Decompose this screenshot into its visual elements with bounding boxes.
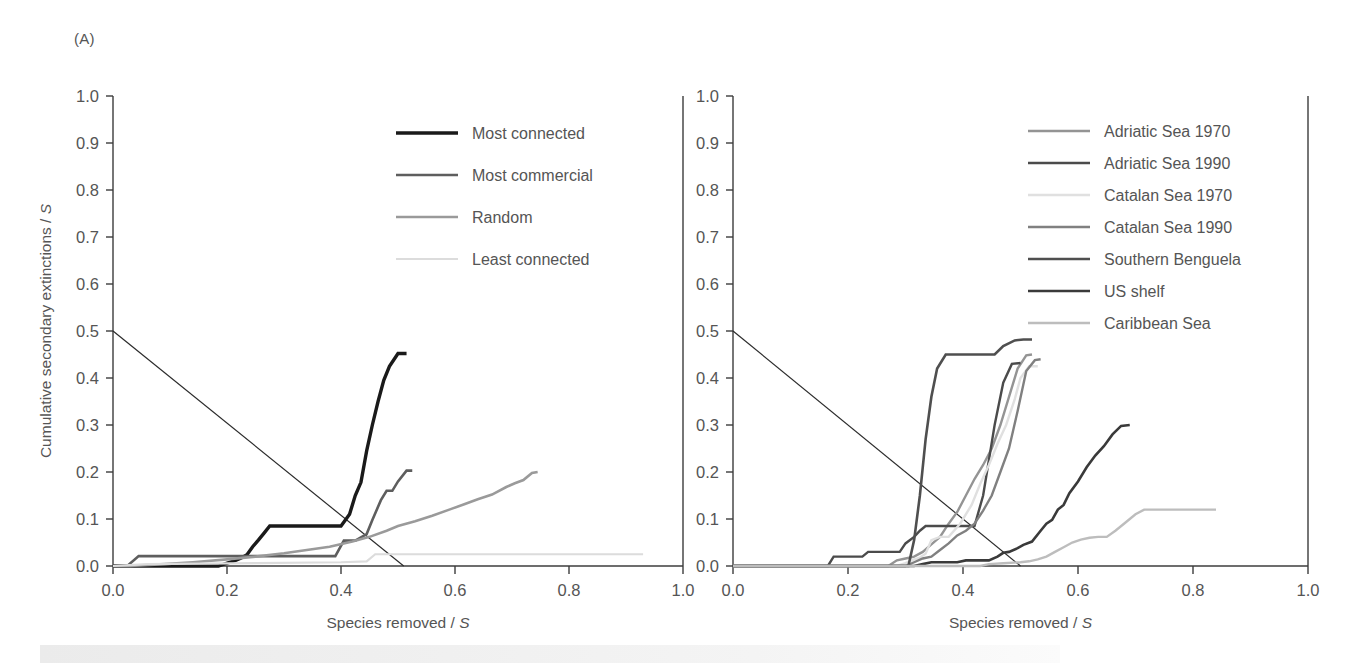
x-tick-label: 0.0 xyxy=(722,581,745,599)
y-tick-label: 0.6 xyxy=(76,275,99,293)
x-tick-label: 0.2 xyxy=(837,581,860,599)
x-axis-title: Species removed / S xyxy=(949,614,1093,631)
chart-a: 0.00.10.20.30.40.50.60.70.80.91.00.00.20… xyxy=(0,0,700,640)
y-tick-label: 0.8 xyxy=(76,181,99,199)
legend-label-adriatic-sea-1990: Adriatic Sea 1990 xyxy=(1104,155,1230,172)
x-axis-title: Species removed / S xyxy=(326,614,470,631)
series-line-adriatic-sea-1970 xyxy=(733,355,1032,567)
y-tick-label: 0.4 xyxy=(76,369,99,387)
y-ticks: 0.00.10.20.30.40.50.60.70.80.91.0 xyxy=(696,87,733,575)
series-line-catalan-sea-1970 xyxy=(733,366,1038,566)
series-line-catalan-sea-1990 xyxy=(733,359,1041,566)
x-tick-label: 0.2 xyxy=(216,581,239,599)
y-tick-label: 0.2 xyxy=(76,463,99,481)
legend: Most connectedMost commercialRandomLeast… xyxy=(396,125,593,268)
panel-b: (B) 0.00.10.20.30.40.50.60.70.80.91.00.0… xyxy=(660,0,1360,640)
series-group xyxy=(113,354,643,566)
legend-label-random: Random xyxy=(472,209,532,226)
x-tick-label: 0.4 xyxy=(952,581,975,599)
chart-b: 0.00.10.20.30.40.50.60.70.80.91.00.00.20… xyxy=(660,0,1360,640)
y-tick-label: 0.5 xyxy=(696,322,719,340)
legend-label-catalan-sea-1970: Catalan Sea 1970 xyxy=(1104,187,1232,204)
series-line-adriatic-sea-1990 xyxy=(733,363,1021,566)
legend-label-adriatic-sea-1970: Adriatic Sea 1970 xyxy=(1104,123,1230,140)
x-tick-label: 0.4 xyxy=(330,581,353,599)
y-tick-label: 0.8 xyxy=(696,181,719,199)
series-line-most-commercial xyxy=(113,471,412,566)
series-line-caribbean-sea xyxy=(733,510,1216,566)
axes xyxy=(113,96,683,566)
y-tick-label: 1.0 xyxy=(76,87,99,105)
legend-label-least-connected: Least connected xyxy=(472,251,589,268)
y-tick-label: 0.9 xyxy=(76,134,99,152)
y-axis-title: Cumulative secondary extinctions / S xyxy=(37,203,54,458)
series-group xyxy=(733,339,1216,566)
y-tick-label: 0.1 xyxy=(76,510,99,528)
y-tick-label: 1.0 xyxy=(696,87,719,105)
legend-label-most-commercial: Most commercial xyxy=(472,167,593,184)
legend-label-southern-benguela: Southern Benguela xyxy=(1104,251,1241,268)
reference-diagonal-line xyxy=(113,331,404,566)
x-tick-label: 0.8 xyxy=(1182,581,1205,599)
y-tick-label: 0.0 xyxy=(76,557,99,575)
x-tick-label: 0.6 xyxy=(1067,581,1090,599)
y-tick-label: 0.6 xyxy=(696,275,719,293)
reference-diagonal-line xyxy=(733,331,1021,566)
panel-a: (A) 0.00.10.20.30.40.50.60.70.80.91.00.0… xyxy=(0,0,700,640)
legend: Adriatic Sea 1970Adriatic Sea 1990Catala… xyxy=(1028,123,1241,332)
y-tick-label: 0.3 xyxy=(696,416,719,434)
y-tick-label: 0.0 xyxy=(696,557,719,575)
legend-label-us-shelf: US shelf xyxy=(1104,283,1165,300)
y-tick-label: 0.7 xyxy=(76,228,99,246)
y-tick-label: 0.2 xyxy=(696,463,719,481)
bottom-strip xyxy=(40,645,1060,663)
legend-label-catalan-sea-1990: Catalan Sea 1990 xyxy=(1104,219,1232,236)
legend-label-most-connected: Most connected xyxy=(472,125,585,142)
series-line-most-connected xyxy=(113,354,407,566)
y-ticks: 0.00.10.20.30.40.50.60.70.80.91.0 xyxy=(76,87,113,575)
x-tick-label: 1.0 xyxy=(1297,581,1320,599)
x-tick-label: 0.8 xyxy=(558,581,581,599)
x-ticks: 0.00.20.40.60.81.0 xyxy=(722,566,1320,599)
y-tick-label: 0.3 xyxy=(76,416,99,434)
y-tick-label: 0.9 xyxy=(696,134,719,152)
series-line-random xyxy=(113,472,538,566)
y-tick-label: 0.4 xyxy=(696,369,719,387)
y-tick-label: 0.7 xyxy=(696,228,719,246)
x-tick-label: 0.6 xyxy=(444,581,467,599)
x-tick-label: 0.0 xyxy=(102,581,125,599)
legend-label-caribbean-sea: Caribbean Sea xyxy=(1104,315,1211,332)
x-ticks: 0.00.20.40.60.81.0 xyxy=(102,566,695,599)
y-tick-label: 0.5 xyxy=(76,322,99,340)
y-tick-label: 0.1 xyxy=(696,510,719,528)
